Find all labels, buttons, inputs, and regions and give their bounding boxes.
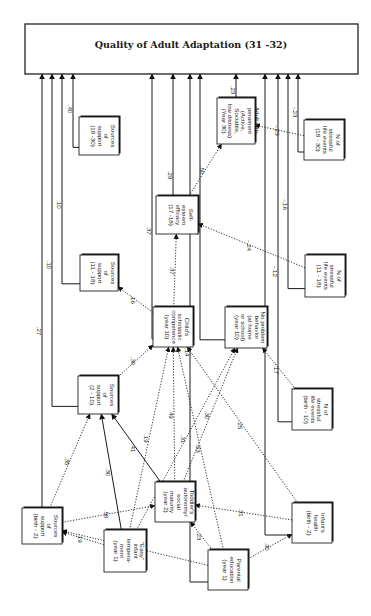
- path-self_est-to-outcome: .29: [167, 74, 174, 196]
- path-easy-to-sup_b2: .19: [62, 532, 104, 545]
- path-infant_health-to-toddler: .31: [195, 505, 292, 520]
- path-coefficient: -.23: [274, 125, 281, 136]
- path-coefficient: .16: [130, 295, 137, 304]
- path-parent_ed-to-toddler: .23: [191, 522, 213, 550]
- node-label-line: (Year 30): [221, 108, 228, 133]
- path-line: [152, 74, 153, 339]
- path-coefficient: -.16: [282, 199, 289, 210]
- path-child_sch-to-sup_11_18: .16: [118, 287, 153, 313]
- path-coefficient: .30: [264, 542, 271, 551]
- path-sup_2_10-to-child_sch: .30: [118, 345, 153, 377]
- path-coefficient: .30: [204, 411, 211, 420]
- path-coefficient: .35: [64, 457, 71, 466]
- node-sup-b2: Sourcesofsupport(birth - 2): [22, 507, 64, 545]
- path-line: [52, 74, 78, 406]
- path-coefficient: -.23: [292, 107, 299, 118]
- node-label-line: (year 10): [234, 315, 241, 340]
- node-toddler: Toddler'sautonomy/socialmaturity(year 2): [155, 481, 197, 523]
- path-coefficient: .29: [167, 171, 174, 180]
- path-coefficient: .30: [130, 357, 137, 366]
- path-coefficient: -.17: [273, 363, 280, 374]
- node-label-line: (birth - 2): [33, 513, 40, 538]
- node-adult-temp: Adult tem-perament(Active,Sociable,low d…: [217, 97, 261, 145]
- path-coefficient: .23: [230, 86, 237, 95]
- node-stress-b10: N ofstressfullife events(birth - 10): [292, 388, 334, 431]
- node-parent-ed: Parentaleducation(year 1): [208, 549, 250, 591]
- path-coefficient: -.12: [272, 266, 279, 277]
- path-diagram: Quality of Adult Adaptation (31 -32) .27…: [0, 0, 371, 616]
- node-infant-health: Infant'shealth(birth - 2): [292, 502, 334, 544]
- path-coefficient: .19: [143, 434, 150, 443]
- node-label-line: (year 2): [163, 491, 170, 512]
- node-label-line: (17 -18): [168, 204, 175, 226]
- node-easy: "Easy"infanttempera-ment(year 1): [104, 529, 148, 573]
- node-label-line: (birth - 10): [303, 395, 310, 424]
- path-diagram-canvas: Quality of Adult Adaptation (31 -32) .27…: [0, 0, 371, 616]
- node-label-line: (2 - 10): [89, 385, 96, 405]
- path-coefficient: .19: [77, 534, 84, 543]
- node-sup-18-30: Sourcesofsupport(18 -30): [79, 116, 121, 156]
- path-coefficient: .31: [238, 508, 245, 517]
- path-adult_temp-to-outcome: .23: [230, 74, 237, 98]
- path-coefficient: .41: [130, 444, 137, 453]
- node-label-line: (year 1): [113, 540, 120, 561]
- node-label-line: (11 - 18): [316, 265, 323, 288]
- path-nodes: Sourcesofsupport(birth - 2)Sourcesofsupp…: [22, 97, 347, 591]
- path-coefficient: .14: [184, 348, 191, 357]
- path-self_est-to-adult_temp: .50: [189, 144, 222, 196]
- path-toddler-to-sup_2_10: .41: [112, 414, 161, 482]
- path-coefficient: .50: [199, 166, 206, 175]
- path-coefficient: .23: [196, 532, 203, 541]
- path-coefficient: .53: [195, 444, 202, 453]
- path-coefficient: .58: [103, 510, 110, 519]
- node-label-line: (18 - 30): [315, 128, 322, 151]
- path-infant_health-to-child_sch: .25: [187, 347, 298, 503]
- path-sup_b2-to-sup_2_10: .35: [50, 414, 90, 508]
- path-coefficient: .37: [146, 226, 153, 235]
- path-toddler-to-child_sch: .49: [168, 347, 175, 482]
- path-sup_18_30-to-outcome: .40: [67, 74, 79, 147]
- node-label-line: (18 -30): [90, 125, 97, 147]
- path-stress_18_30-to-adult_temp: -.23: [255, 125, 304, 136]
- path-child_sch-to-self_est: .37: [169, 234, 176, 307]
- path-coefficient: .31: [180, 435, 187, 444]
- path-coefficient: .37: [169, 266, 176, 275]
- path-coefficient: .40: [67, 105, 74, 114]
- path-coefficient: .10: [56, 200, 63, 209]
- path-sup_b2-to-outcome: .27: [36, 74, 43, 508]
- path-infant_health-to-outcome: .19: [259, 74, 292, 535]
- node-stress-11-18: N ofstressfullife events(11 - 18): [305, 254, 347, 298]
- node-stress-18-30: N ofstressfullife events(18 - 30): [304, 119, 346, 161]
- path-stress_b10-to-noprob: -.17: [263, 348, 296, 389]
- node-sup-11-18: Sourcesofsupport(11 - 18): [80, 254, 120, 292]
- path-child_sch-to-outcome: .37: [146, 74, 153, 339]
- node-sup-2-10: Sourcesofsupport(2 - 10): [78, 375, 120, 415]
- path-coefficient: -.24: [246, 240, 253, 251]
- node-noprob: No problembehavior(at homeor school)(yea…: [225, 306, 269, 349]
- path-coefficient: .49: [168, 410, 175, 419]
- path-coefficient: .25: [237, 421, 244, 430]
- path-coefficient: .27: [36, 327, 43, 336]
- path-coefficient: .30: [105, 468, 112, 477]
- path-sup_b2-to-toddler: .58: [62, 506, 155, 523]
- path-toddler-to-noprob: .30: [183, 348, 238, 482]
- node-self-est: Self-esteemefficacy(17 -18): [156, 195, 200, 235]
- path-stress_11_18-to-self_est: -.24: [198, 224, 305, 268]
- path-stress_18_30-to-outcome: -.23: [292, 74, 304, 152]
- path-coefficient: .10: [46, 261, 53, 270]
- node-label-line: (year 1): [222, 559, 229, 580]
- outcome-title: Quality of Adult Adaptation (31 -32): [95, 39, 287, 50]
- node-child-sch: Child'sscholasticcompetence(year 10): [153, 306, 195, 348]
- path-parent_ed-to-infant_health: .30: [248, 534, 292, 559]
- node-label-line: (11 - 18): [90, 262, 97, 285]
- node-label-line: (year 10): [164, 315, 171, 340]
- node-label-line: (birth - 2): [306, 510, 313, 535]
